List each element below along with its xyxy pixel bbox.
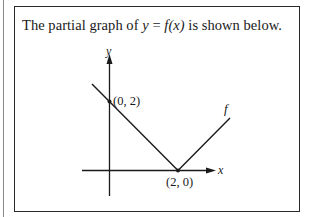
function-graph: y x f (0, 2) (2, 0) [0, 0, 309, 217]
point-0-2 [108, 100, 112, 104]
curve-label: f [224, 101, 230, 116]
point-2-0 [176, 169, 180, 173]
point-label-2-0: (2, 0) [166, 175, 193, 189]
x-axis-arrow-icon [206, 168, 216, 174]
x-axis-label: x [217, 163, 224, 177]
point-label-0-2: (0, 2) [113, 94, 140, 108]
y-axis-label: y [105, 44, 112, 58]
